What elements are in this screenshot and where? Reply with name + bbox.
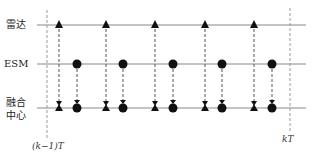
measurement-markers xyxy=(55,20,277,113)
esm-dot-icon xyxy=(169,60,178,69)
fusion-dot-icon xyxy=(169,104,178,113)
arrow-down-icon xyxy=(120,100,126,104)
arrow-down-icon xyxy=(219,100,225,104)
start-time-label: (k−1)T xyxy=(32,141,64,151)
esm-label: ESM xyxy=(4,58,28,69)
timing-diagram xyxy=(0,0,313,161)
fusion-center-label-line2: 中心 xyxy=(6,110,26,121)
radar-triangle-icon xyxy=(250,20,258,28)
radar-triangle-icon xyxy=(55,20,63,28)
esm-dot-icon xyxy=(73,60,82,69)
radar-triangle-icon xyxy=(102,20,110,28)
fusion-dot-icon xyxy=(119,104,128,113)
esm-dot-icon xyxy=(119,60,128,69)
fusion-dot-icon xyxy=(218,104,227,113)
fusion-dot-icon xyxy=(73,104,82,113)
esm-dot-icon xyxy=(268,60,277,69)
radar-triangle-icon xyxy=(201,20,209,28)
arrow-down-icon xyxy=(170,100,176,104)
fusion-dot-icon xyxy=(268,104,277,113)
radar-label: 雷达 xyxy=(6,19,26,30)
fusion-center-label-line1: 融合 xyxy=(6,97,26,108)
end-time-label: kT xyxy=(282,134,293,144)
radar-triangle-icon xyxy=(151,20,159,28)
arrow-down-icon xyxy=(269,100,275,104)
esm-dot-icon xyxy=(218,60,227,69)
transfer-links xyxy=(59,29,272,102)
arrow-down-icon xyxy=(74,100,80,104)
